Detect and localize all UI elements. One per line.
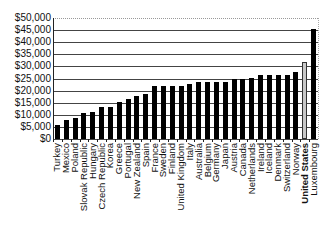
bar-united-kingdom <box>179 86 184 139</box>
x-tick <box>283 139 284 142</box>
bar-poland <box>73 118 78 139</box>
gridline <box>53 42 318 43</box>
y-tick-label: $0 <box>40 134 51 144</box>
x-tick <box>159 139 160 142</box>
bar-finland <box>170 86 175 139</box>
y-tick-label: $30,000 <box>15 61 51 71</box>
gridline <box>53 30 318 31</box>
x-tick-label: Luxembourg <box>309 143 318 196</box>
bar-netherlands <box>249 78 254 139</box>
bar-turkey <box>55 125 60 139</box>
y-tick-label: $20,000 <box>15 86 51 96</box>
plot-border <box>318 18 319 139</box>
bar-portugal <box>126 99 131 139</box>
bar-canada <box>240 79 245 139</box>
x-tick <box>124 139 125 142</box>
x-tick <box>221 139 222 142</box>
x-tick <box>168 139 169 142</box>
bar-greece <box>117 102 122 139</box>
y-tick-label: $40,000 <box>15 37 51 47</box>
y-tick-label: $5,000 <box>20 122 51 132</box>
bar-iceland <box>267 75 272 139</box>
x-tick <box>239 139 240 142</box>
x-tick <box>53 139 54 142</box>
bar-japan <box>223 82 228 139</box>
y-tick-label: $50,000 <box>15 13 51 23</box>
x-tick <box>97 139 98 142</box>
gridline <box>53 54 318 55</box>
bar-ireland <box>258 75 263 139</box>
gridline <box>53 18 318 19</box>
x-tick <box>292 139 293 142</box>
bar-belgium <box>205 82 210 139</box>
bar-slovak-republic <box>81 113 86 139</box>
x-tick <box>212 139 213 142</box>
x-tick <box>80 139 81 142</box>
bar-new-zealand <box>134 96 139 139</box>
bar-norway <box>293 72 298 139</box>
x-tick <box>256 139 257 142</box>
bar-denmark <box>276 75 281 139</box>
x-tick <box>194 139 195 142</box>
x-tick <box>71 139 72 142</box>
x-tick <box>150 139 151 142</box>
bar-hungary <box>90 112 95 139</box>
bar-spain <box>143 94 148 139</box>
y-tick-label: $15,000 <box>15 98 51 108</box>
bar-united-states <box>302 62 307 139</box>
bar-austria <box>232 79 237 139</box>
bar-australia <box>196 82 201 139</box>
bar-italy <box>187 84 192 139</box>
bar-luxembourg <box>311 29 316 139</box>
x-tick <box>274 139 275 142</box>
x-tick <box>133 139 134 142</box>
bar-czech-republic <box>99 107 104 139</box>
x-tick <box>309 139 310 142</box>
x-tick <box>186 139 187 142</box>
y-axis <box>53 18 54 139</box>
y-tick-label: $45,000 <box>15 25 51 35</box>
x-tick <box>141 139 142 142</box>
x-tick <box>88 139 89 142</box>
y-tick-label: $35,000 <box>15 49 51 59</box>
x-tick <box>62 139 63 142</box>
bar-chart: $0$5,000$10,000$15,000$20,000$25,000$30,… <box>0 0 334 226</box>
x-tick <box>177 139 178 142</box>
x-tick <box>115 139 116 142</box>
y-tick-label: $25,000 <box>15 74 51 84</box>
bar-switzerland <box>285 75 290 139</box>
x-tick <box>247 139 248 142</box>
x-tick <box>265 139 266 142</box>
bar-mexico <box>64 120 69 139</box>
bar-korea <box>108 107 113 139</box>
gridline <box>53 66 318 67</box>
y-tick-label: $10,000 <box>15 110 51 120</box>
x-tick <box>230 139 231 142</box>
bar-germany <box>214 82 219 139</box>
bar-france <box>152 86 157 139</box>
bar-sweden <box>161 86 166 139</box>
x-tick <box>300 139 301 142</box>
x-tick <box>106 139 107 142</box>
x-tick <box>203 139 204 142</box>
